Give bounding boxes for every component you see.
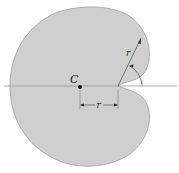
cardioid-diagram: r C r: [0, 0, 179, 173]
centroid-dot: [78, 85, 82, 89]
radius-label-dimension: r: [97, 100, 102, 110]
radius-label-slant: r: [126, 48, 131, 58]
centroid-label: C: [70, 73, 79, 86]
